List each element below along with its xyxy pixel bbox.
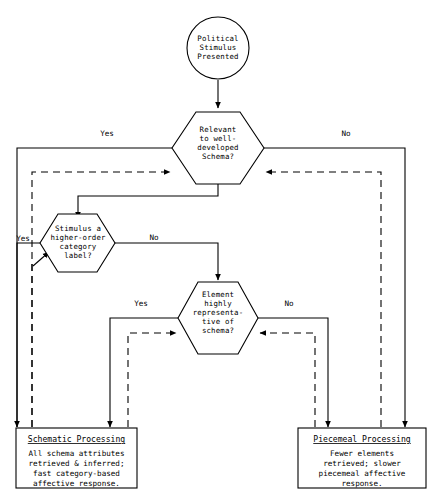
- node-outcome-piecemeal-processing[interactable]: Piecemeal Processing Fewer elements retr…: [298, 428, 426, 488]
- decision2-line-3: category: [60, 242, 97, 251]
- flowchart-svg: Political Stimulus Presented Relevant to…: [0, 0, 429, 499]
- piecemeal-box-line-1: Fewer elements: [330, 449, 394, 458]
- decision2-line-2: higher-order: [50, 233, 106, 242]
- edge-decision3-no: [258, 318, 328, 427]
- schematic-box-line-3: fast category-based: [33, 469, 120, 478]
- edge-label-decision2-yes: Yes: [16, 234, 30, 243]
- piecemeal-box-line-2: retrieved; slower: [323, 459, 401, 468]
- decision3-line-5: schema?: [202, 326, 234, 335]
- decision3-line-1: Element: [202, 290, 234, 299]
- edge-label-decision1-yes: Yes: [100, 129, 114, 138]
- decision1-line-2: to well-: [200, 134, 237, 143]
- edge-label-decision1-no: No: [341, 129, 351, 138]
- start-line-3: Presented: [197, 52, 238, 61]
- node-decision-element-representative[interactable]: Element highly representa- tive of schem…: [178, 282, 258, 354]
- schematic-box-title: Schematic Processing: [28, 434, 126, 444]
- edge-decision2-yes: [17, 243, 42, 427]
- schematic-box-line-1: All schema attributes: [28, 449, 124, 458]
- feedback-dashed-left-to-decision3: [128, 333, 176, 427]
- feedback-dashed-right-to-decision1: [266, 172, 381, 427]
- edge-decision1-to-decision2: [78, 180, 218, 218]
- edge-decision3-yes: [110, 318, 178, 427]
- edge-decision1-no: [264, 148, 405, 427]
- node-start-political-stimulus[interactable]: Political Stimulus Presented: [187, 17, 249, 79]
- edge-label-decision3-yes: Yes: [134, 299, 148, 308]
- feedback-dashed-to-decision2: [32, 252, 49, 427]
- start-line-2: Stimulus: [200, 43, 237, 52]
- decision3-line-2: highly: [204, 299, 232, 308]
- edge-decision1-yes: [17, 148, 173, 427]
- start-line-1: Political: [197, 34, 238, 43]
- feedback-dashed-left-to-decision1: [32, 172, 170, 427]
- decision3-line-4: tive of: [202, 317, 234, 326]
- edge-decision2-no: [113, 243, 218, 280]
- decision3-line-3: representa-: [193, 308, 244, 317]
- node-decision-relevant-schema[interactable]: Relevant to well- developed Schema?: [172, 112, 264, 184]
- edge-label-decision3-no: No: [284, 299, 294, 308]
- decision1-line-3: developed: [197, 143, 238, 152]
- feedback-dashed-right-to-decision3: [260, 333, 315, 427]
- piecemeal-box-line-4: response.: [341, 479, 382, 488]
- decision2-line-1: Stimulus a: [55, 224, 101, 233]
- decision1-line-1: Relevant: [200, 125, 237, 134]
- decision2-line-4: label?: [64, 251, 92, 260]
- node-outcome-schematic-processing[interactable]: Schematic Processing All schema attribut…: [16, 428, 137, 488]
- flowchart-canvas: Political Stimulus Presented Relevant to…: [0, 0, 429, 499]
- decision1-line-4: Schema?: [202, 152, 234, 161]
- edge-label-decision2-no: No: [149, 233, 159, 242]
- schematic-box-line-4: affective response.: [33, 479, 120, 488]
- node-decision-higher-order-category[interactable]: Stimulus a higher-order category label?: [40, 214, 115, 272]
- schematic-box-line-2: retrieved & inferred;: [28, 459, 124, 468]
- piecemeal-box-title: Piecemeal Processing: [313, 434, 411, 444]
- piecemeal-box-line-3: piecemeal affective: [319, 469, 406, 478]
